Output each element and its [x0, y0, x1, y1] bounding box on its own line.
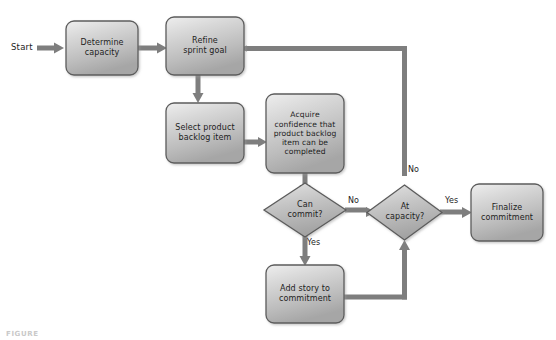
node-refine-sprint-goal[interactable]	[166, 17, 244, 75]
edge-label-at-capacity-yes: Yes	[445, 196, 458, 205]
edge-select-to-acquire	[243, 137, 267, 147]
edge-determine-to-refine	[137, 43, 167, 54]
edge-addstory-to-atcapacity	[342, 240, 410, 300]
connector-layer: At capacity? (right) --> Add story (down…	[37, 43, 472, 300]
figure-caption: FIGURE	[6, 330, 39, 339]
node-select-backlog-item[interactable]	[166, 103, 244, 163]
edge-label-can-commit-yes: Yes	[307, 238, 320, 247]
edge-label-can-commit-no: No	[348, 196, 359, 205]
node-can-commit[interactable]	[264, 183, 346, 237]
node-determine-capacity[interactable]	[66, 21, 138, 75]
edge-start-to-determine	[37, 43, 64, 54]
flowchart-canvas: At capacity? (right) --> Add story (down…	[0, 0, 556, 340]
node-finalize-commitment[interactable]	[471, 184, 543, 241]
node-add-story[interactable]	[266, 265, 344, 323]
edge-atcapacity-yes-to-finalize	[440, 207, 472, 218]
edge-label-at-capacity-no: No	[408, 165, 419, 174]
edge-refine-to-select	[193, 75, 204, 103]
start-label: Start	[11, 42, 33, 52]
node-at-capacity[interactable]	[367, 185, 442, 240]
node-acquire-confidence[interactable]	[266, 94, 344, 173]
